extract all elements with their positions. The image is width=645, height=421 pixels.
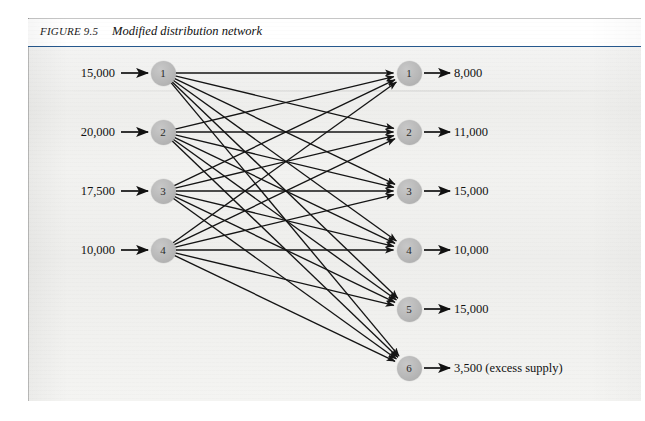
- demand-node-4[interactable]: 4: [397, 238, 422, 263]
- figure-root: FIGURE 9.5 Modified distribution network…: [0, 0, 645, 421]
- demand-node-3[interactable]: 3: [397, 179, 422, 204]
- demand-node-1[interactable]: 1: [397, 61, 422, 86]
- arc-s2-d1: [175, 77, 394, 129]
- arc-s4-d6: [174, 255, 395, 361]
- arc-s2-d3: [175, 135, 394, 187]
- supply-value-3: 17,500: [81, 184, 115, 199]
- supply-node-3[interactable]: 3: [151, 179, 176, 204]
- supply-value-1: 15,000: [81, 66, 115, 81]
- network-arcs-layer: [28, 18, 641, 401]
- supply-to-demand-arcs: [171, 73, 399, 361]
- network-diagram: 1234123456 15,00020,00017,50010,0008,000…: [28, 18, 641, 401]
- demand-node-5[interactable]: 5: [397, 297, 422, 322]
- arc-s4-d5: [175, 253, 394, 305]
- demand-node-2[interactable]: 2: [397, 120, 422, 145]
- supply-node-4[interactable]: 4: [151, 238, 176, 263]
- supply-value-4: 10,000: [81, 243, 115, 258]
- arc-s1-d2: [175, 76, 394, 128]
- figure-panel: FIGURE 9.5 Modified distribution network…: [28, 18, 641, 401]
- demand-value-1: 8,000: [454, 66, 482, 81]
- arc-s3-d4: [175, 194, 394, 246]
- arc-s4-d3: [175, 195, 394, 247]
- supply-node-2[interactable]: 2: [151, 120, 176, 145]
- supply-node-1[interactable]: 1: [151, 61, 176, 86]
- supply-value-2: 20,000: [81, 125, 115, 140]
- demand-value-6: 3,500 (excess supply): [454, 361, 563, 376]
- demand-value-5: 15,000: [454, 302, 488, 317]
- demand-value-2: 11,000: [454, 125, 488, 140]
- demand-node-6[interactable]: 6: [397, 356, 422, 381]
- demand-value-3: 15,000: [454, 184, 488, 199]
- demand-value-4: 10,000: [454, 243, 488, 258]
